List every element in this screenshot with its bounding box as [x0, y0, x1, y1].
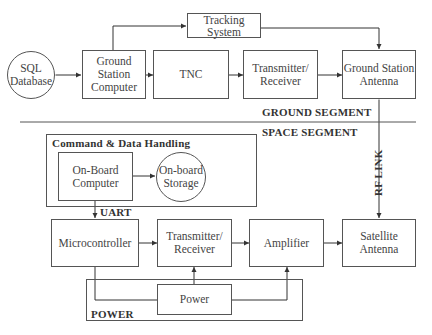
tracking-system-box: Tracking System	[187, 13, 261, 38]
sql-database-node: SQL Database	[7, 51, 55, 99]
satellite-antenna-box: Satellite Antenna	[342, 219, 416, 267]
cdh-label: Command & Data Handling	[52, 137, 190, 149]
space-transmitter-receiver-box: Transmitter/ Receiver	[157, 219, 232, 267]
space-segment-label: SPACE SEGMENT	[262, 126, 358, 138]
power-label: POWER	[91, 308, 134, 320]
microcontroller-box: Microcontroller	[51, 219, 139, 267]
on-board-storage-node: On-board Storage	[156, 152, 206, 202]
ground-transmitter-receiver-box: Transmitter/ Receiver	[243, 50, 318, 99]
ground-segment-label: GROUND SEGMENT	[262, 106, 371, 118]
amplifier-box: Amplifier	[249, 219, 324, 267]
tnc-box: TNC	[153, 50, 229, 99]
on-board-computer-box: On-Board Computer	[58, 152, 133, 201]
power-box: Power	[157, 284, 232, 315]
rf-link-label: RF LINK	[372, 156, 384, 196]
ground-station-antenna-box: Ground Station Antenna	[342, 50, 416, 99]
uart-label: UART	[100, 206, 132, 218]
ground-station-computer-box: Ground Station Computer	[82, 50, 146, 99]
